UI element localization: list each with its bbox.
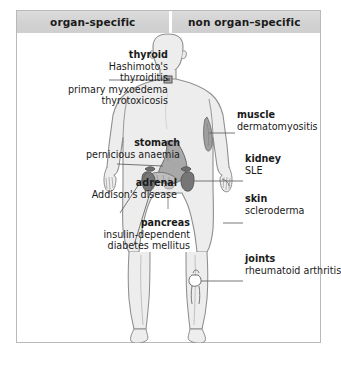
left-foot [131,329,148,343]
label-skin-term: skin [245,193,304,205]
label-thyroid-disease-4: thyrotoxicosis [68,95,168,107]
label-muscle: muscle dermatomyositis [237,109,318,132]
adrenal-gland-marker-right [181,167,191,172]
label-adrenal-disease-1: Addison's disease [92,189,177,201]
label-adrenal: adrenal Addison's disease [92,177,177,200]
label-pancreas-disease-2: diabetes mellitus [103,240,190,252]
label-joints-disease-1: rheumatoid arthritis [245,265,341,277]
right-foot [188,329,205,343]
column-header-band: organ-specific non organ–specific [17,11,320,33]
column-header-non-organ-specific: non organ–specific [169,11,321,33]
label-thyroid: thyroid Hashimoto's thyroiditis primary … [68,49,168,107]
label-thyroid-term: thyroid [68,49,168,61]
label-stomach: stomach pernicious anaemia [86,137,180,160]
label-adrenal-term: adrenal [92,177,177,189]
diagram-frame: organ-specific non organ–specific [16,10,321,343]
label-skin: skin scleroderma [245,193,304,216]
label-pancreas-term: pancreas [103,217,190,229]
adrenal-gland-marker [145,167,155,172]
left-leg-outline [128,252,150,329]
label-kidney-disease-1: SLE [245,165,281,177]
label-thyroid-disease-3: primary myxoedema [68,84,168,96]
right-leg-outline [186,252,208,329]
label-pancreas: pancreas insulin-dependent diabetes mell… [103,217,190,252]
knee-joint-marker [189,275,201,286]
label-muscle-disease-1: dermatomyositis [237,121,318,133]
label-kidney-term: kidney [245,153,281,165]
label-pancreas-disease-1: insulin-dependent [103,229,190,241]
label-stomach-disease-1: pernicious anaemia [86,149,180,161]
label-joints-term: joints [245,253,341,265]
label-joints: joints rheumatoid arthritis [245,253,341,276]
column-header-organ-specific: organ-specific [17,11,169,33]
label-thyroid-disease-2: thyroiditis [68,72,168,84]
label-kidney: kidney SLE [245,153,281,176]
label-muscle-term: muscle [237,109,318,121]
kidney-organ-marker [181,172,194,191]
label-stomach-term: stomach [86,137,180,149]
label-skin-disease-1: scleroderma [245,205,304,217]
label-thyroid-disease-1: Hashimoto's [68,61,168,73]
